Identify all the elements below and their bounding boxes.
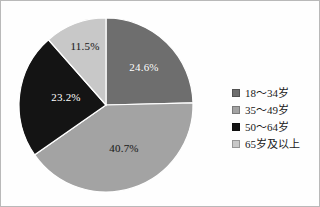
pie-chart-figure: 24.6%40.7%23.2%11.5% 18～34岁35～49岁50～64岁6… <box>0 0 320 207</box>
pie-slice-group <box>19 18 193 192</box>
legend-item-2[interactable]: 50～64岁 <box>232 119 318 135</box>
legend-item-label: 65岁及以上 <box>245 137 300 151</box>
pie-slice-label-65-plus: 11.5% <box>70 40 99 52</box>
legend-swatch-icon-3 <box>232 140 240 148</box>
legend-swatch-icon-1 <box>232 106 240 114</box>
pie-plot-area: 24.6%40.7%23.2%11.5% <box>1 1 215 206</box>
legend-item-3[interactable]: 65岁及以上 <box>232 136 318 152</box>
legend-swatch-icon-2 <box>232 123 240 131</box>
pie-svg <box>1 1 215 206</box>
pie-slice-label-50-64: 23.2% <box>51 91 80 103</box>
legend-swatch-icon-0 <box>232 89 240 97</box>
pie-slice-label-18-34: 24.6% <box>129 61 158 73</box>
legend-item-0[interactable]: 18～34岁 <box>232 85 318 101</box>
chart-legend: 18～34岁35～49岁50～64岁65岁及以上 <box>232 85 318 153</box>
legend-item-1[interactable]: 35～49岁 <box>232 102 318 118</box>
pie-slice-label-35-49: 40.7% <box>109 142 138 154</box>
legend-item-label: 35～49岁 <box>245 103 289 117</box>
legend-item-label: 50～64岁 <box>245 120 289 134</box>
legend-item-label: 18～34岁 <box>245 86 289 100</box>
